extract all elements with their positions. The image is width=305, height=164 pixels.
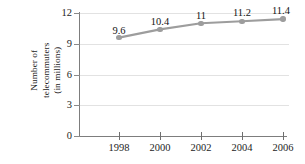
x-tick-mark-2000: [160, 132, 161, 140]
gridline-9: [79, 44, 289, 45]
y-tick-mark-9: [74, 44, 80, 45]
x-tick-label-2006: 2006: [260, 142, 305, 154]
x-tick-mark-2002: [201, 132, 202, 140]
line-chart: Number of telecommuters (in millions) 12…: [0, 0, 305, 164]
y-tick-label-6: 6: [42, 70, 72, 81]
data-point-2006: [280, 16, 285, 21]
y-tick-mark-6: [74, 75, 80, 76]
y-axis-title-line-1: Number of: [29, 42, 41, 97]
data-label-2002: 11: [178, 10, 224, 21]
x-tick-mark-2004: [242, 132, 243, 140]
y-tick-label-0: 0: [42, 131, 72, 142]
y-tick-mark-12: [74, 13, 80, 14]
x-tick-label-2000: 2000: [137, 142, 183, 154]
data-point-2002: [198, 21, 203, 26]
y-tick-label-12: 12: [42, 8, 72, 19]
data-label-1998: 9.6: [96, 25, 142, 36]
x-tick-label-2002: 2002: [178, 142, 224, 154]
gridline-6: [79, 75, 289, 76]
y-tick-mark-0: [74, 136, 80, 137]
x-tick-mark-2006: [283, 132, 284, 140]
gridline-3: [79, 105, 289, 106]
x-axis-line: [79, 136, 287, 137]
y-tick-label-3: 3: [42, 100, 72, 111]
y-tick-mark-3: [74, 105, 80, 106]
data-label-2006: 11.4: [258, 5, 304, 16]
data-point-2004: [239, 19, 244, 24]
data-point-2000: [157, 27, 162, 32]
x-tick-label-2004: 2004: [219, 142, 265, 154]
y-tick-label-9: 9: [42, 39, 72, 50]
x-tick-mark-1998: [119, 132, 120, 140]
data-label-2000: 10.4: [137, 16, 183, 27]
x-tick-label-1998: 1998: [96, 142, 142, 154]
